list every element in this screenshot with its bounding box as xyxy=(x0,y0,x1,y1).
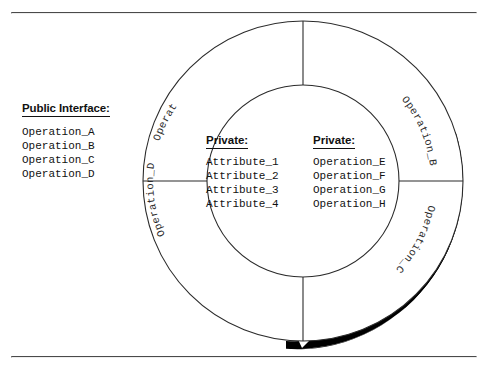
list-item: Attribute_4 xyxy=(206,197,295,211)
private-operations-heading: Private: xyxy=(313,134,355,149)
list-item: Operation_H xyxy=(313,197,402,211)
private-operations-column: Private: Operation_E Operation_F Operati… xyxy=(313,130,402,211)
list-item: Attribute_3 xyxy=(206,183,295,197)
private-section: Private: Attribute_1 Attribute_2 Attribu… xyxy=(206,130,402,211)
list-item: Attribute_2 xyxy=(206,169,295,183)
private-attributes-column: Private: Attribute_1 Attribute_2 Attribu… xyxy=(206,130,295,211)
figure-page: Public Interface: Operation_A Operation_… xyxy=(0,0,486,366)
list-item: Operation_F xyxy=(313,169,402,183)
private-attributes-heading: Private: xyxy=(206,134,248,149)
ring-label-a-text: Operation_A xyxy=(0,0,180,142)
private-operations-list: Operation_E Operation_F Operation_G Oper… xyxy=(313,155,402,211)
ring-label-operation-a: Operation_A xyxy=(0,0,180,142)
list-item: Operation_E xyxy=(313,155,402,169)
list-item: Operation_G xyxy=(313,183,402,197)
list-item: Attribute_1 xyxy=(206,155,295,169)
private-attributes-list: Attribute_1 Attribute_2 Attribute_3 Attr… xyxy=(206,155,295,211)
